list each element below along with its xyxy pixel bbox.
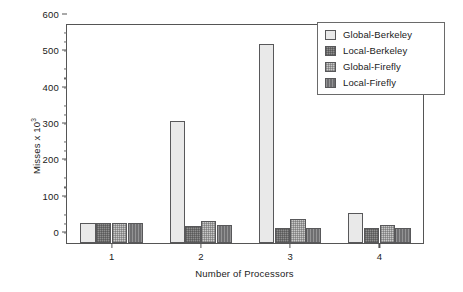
y-axis-minor-tick (64, 32, 67, 33)
y-axis-minor-tick (64, 51, 67, 52)
bar (275, 228, 290, 243)
legend-item-label: Global-Berkeley (343, 29, 412, 40)
y-axis-minor-tick (64, 123, 67, 124)
bar (96, 223, 111, 243)
bar (364, 228, 379, 243)
legend-item-label: Local-Firefly (343, 77, 396, 88)
legend-item-label: Global-Firefly (343, 61, 401, 72)
x-axis-tick-mark (200, 243, 201, 248)
y-axis-tick: 600 (43, 9, 67, 20)
y-axis-minor-tick (64, 78, 67, 79)
y-axis-minor-tick (64, 187, 67, 188)
y-axis-minor-tick (64, 151, 67, 152)
legend-swatch-icon (325, 46, 336, 56)
bar (128, 223, 143, 243)
bar (112, 223, 127, 243)
y-axis-minor-tick (64, 105, 67, 106)
x-axis-tick-mark (111, 243, 112, 248)
x-axis-title: Number of Processors (66, 268, 423, 279)
y-axis-minor-tick (64, 69, 67, 70)
chart-legend: Global-BerkeleyLocal-BerkeleyGlobal-Fire… (317, 22, 445, 95)
bar (380, 225, 395, 243)
bar (201, 221, 216, 243)
x-axis-tick-mark (290, 243, 291, 248)
legend-swatch-icon (325, 30, 336, 40)
x-axis-tick-mark (379, 243, 380, 248)
y-axis-tick-label: 500 (43, 45, 62, 56)
chart-figure: Misses x 103 0100200300400500600 1234 Nu… (0, 0, 463, 292)
legend-item: Global-Berkeley (325, 29, 438, 40)
bar (290, 219, 305, 243)
x-axis-tick-label: 3 (287, 251, 292, 262)
legend-item: Global-Firefly (325, 61, 438, 72)
y-axis-title-exponent: 3 (30, 118, 37, 122)
y-axis-tick-label: 300 (43, 118, 62, 129)
bar (80, 223, 95, 243)
bar (170, 121, 185, 243)
y-axis-tick-label: 0 (54, 227, 62, 238)
legend-swatch-icon (325, 62, 336, 72)
bar (185, 226, 200, 243)
bar (306, 228, 321, 243)
y-axis-minor-tick (64, 196, 67, 197)
y-axis-minor-tick (64, 160, 67, 161)
y-axis-tick-mark (62, 13, 67, 14)
legend-swatch-icon (325, 78, 336, 88)
bar (217, 225, 232, 243)
x-axis-tick-label: 4 (377, 251, 382, 262)
y-axis-minor-tick (64, 214, 67, 215)
bar (259, 44, 274, 243)
legend-item-label: Local-Berkeley (343, 45, 407, 56)
y-axis-tick-label: 400 (43, 81, 62, 92)
y-axis-tick-label: 100 (43, 190, 62, 201)
y-axis-tick-label: 200 (43, 154, 62, 165)
y-axis-minor-tick (64, 42, 67, 43)
y-axis-title: Misses x 103 (30, 118, 42, 174)
legend-item: Local-Berkeley (325, 45, 438, 56)
y-axis-minor-tick (64, 141, 67, 142)
x-axis-tick-label: 2 (198, 251, 203, 262)
y-axis-minor-tick (64, 114, 67, 115)
y-axis-title-text: Misses x 10 (31, 122, 42, 174)
y-axis-minor-tick (64, 232, 67, 233)
y-axis-minor-tick (64, 178, 67, 179)
y-axis-minor-tick (64, 87, 67, 88)
x-axis-tick-label: 1 (109, 251, 114, 262)
bar (348, 213, 363, 243)
legend-item: Local-Firefly (325, 77, 438, 88)
bar (395, 228, 410, 243)
y-axis-minor-tick (64, 223, 67, 224)
y-axis-tick-label: 600 (43, 9, 62, 20)
